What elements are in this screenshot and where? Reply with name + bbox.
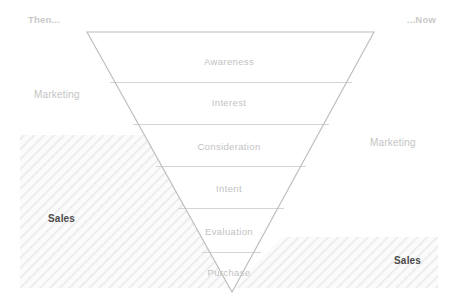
now-marketing-label: Marketing [370, 137, 416, 148]
then-marketing-label: Marketing [34, 89, 80, 100]
funnel-stage-awareness: Awareness [204, 56, 254, 67]
funnel-stage-consideration: Consideration [197, 141, 260, 152]
now-sales-label: Sales [394, 255, 421, 266]
funnel-graphic [0, 0, 458, 304]
funnel-stage-evaluation: Evaluation [205, 226, 253, 237]
funnel-stage-intent: Intent [216, 183, 242, 194]
funnel-stage-interest: Interest [212, 97, 246, 108]
funnel-diagram-canvas: Then... ...Now Marketing Sales Marketing… [0, 0, 458, 304]
then-sales-label: Sales [48, 213, 75, 224]
then-heading: Then... [28, 14, 60, 25]
funnel-stage-purchase: Purchase [208, 267, 251, 278]
now-heading: ...Now [407, 14, 436, 25]
